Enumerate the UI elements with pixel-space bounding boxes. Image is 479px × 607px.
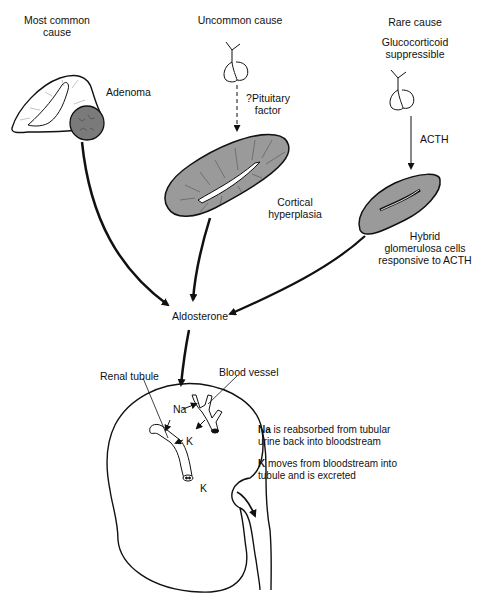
- hybrid-to-aldosterone-arrow: [230, 236, 365, 314]
- note-text: urine back into bloodstream: [258, 436, 390, 448]
- rare-cause-heading: Rare cause: [375, 16, 455, 28]
- k-excretion-note: K moves from bloodstream into tubule and…: [258, 458, 397, 482]
- blood-vessel-label: Blood vessel: [219, 366, 279, 378]
- hyperplasia-to-aldosterone-arrow: [193, 218, 210, 300]
- renal-tubule-icon: [150, 424, 193, 481]
- hybrid-adrenal-icon: [359, 174, 440, 234]
- k-excreted-label: K: [200, 482, 207, 494]
- aldosterone-label: Aldosterone: [160, 310, 240, 322]
- label-line: Hybrid: [370, 230, 479, 242]
- label-line: Glucocorticoid: [375, 36, 455, 48]
- renal-tubule-label: Renal tubule: [100, 370, 159, 382]
- blood-vessel-leader: [208, 376, 237, 404]
- uncommon-cause-heading: Uncommon cause: [190, 14, 290, 26]
- acth-label: ACTH: [420, 133, 449, 145]
- hybrid-glomerulosa-label: Hybrid glomerulosa cells responsive to A…: [370, 230, 479, 266]
- label-line: hyperplasia: [260, 208, 330, 220]
- pituitary-gland-rare-icon: [390, 70, 414, 110]
- cortical-hyperplasia-label: Cortical hyperplasia: [260, 196, 330, 220]
- blood-vessel-icon: [192, 395, 222, 433]
- aldosterone-to-kidney-arrow: [181, 330, 189, 385]
- pituitary-gland-icon: [224, 42, 248, 82]
- label-line: ?Pituitary: [238, 92, 298, 104]
- pituitary-factor-label: ?Pituitary factor: [238, 92, 298, 116]
- na-reabsorption-note: Na is reabsorbed from tubular urine back…: [258, 424, 390, 448]
- na-arrow-from-tubule: [166, 420, 170, 430]
- label-line: glomerulosa cells: [370, 242, 479, 254]
- label-line: suppressible: [375, 48, 455, 60]
- note-text: moves from bloodstream into: [265, 458, 397, 469]
- heading-line: Most common: [22, 14, 92, 26]
- na-label: Na: [173, 403, 186, 415]
- glucocorticoid-suppressible-label: Glucocorticoid suppressible: [375, 36, 455, 60]
- adenoma-icon: [70, 106, 104, 140]
- kidney-icon: [107, 383, 271, 592]
- note-text: tubule and is excreted: [258, 470, 397, 482]
- label-line: factor: [238, 104, 298, 116]
- k-arrow-from-vessel: [197, 420, 205, 428]
- heading-line: cause: [22, 26, 92, 38]
- k-label: K: [186, 435, 193, 447]
- most-common-cause-heading: Most common cause: [22, 14, 92, 38]
- label-line: Cortical: [260, 196, 330, 208]
- adenoma-to-aldosterone-arrow: [82, 142, 168, 305]
- note-text: is reabsorbed from tubular: [271, 424, 391, 435]
- adenoma-label: Adenoma: [106, 86, 151, 98]
- label-line: responsive to ACTH: [370, 254, 479, 266]
- na-bold: Na: [258, 424, 271, 435]
